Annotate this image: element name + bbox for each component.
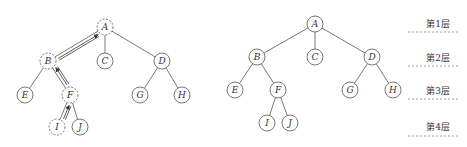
tree-node-e: E	[227, 82, 243, 98]
svg-text:E: E	[231, 85, 239, 95]
svg-text:A: A	[311, 19, 319, 29]
tree-edge	[281, 98, 288, 116]
tree-edge	[72, 103, 77, 120]
svg-text:B: B	[44, 56, 52, 66]
tree-node-j: J	[72, 119, 88, 135]
svg-text:D: D	[157, 56, 165, 66]
tree-node-a: A	[307, 16, 323, 32]
svg-text:E: E	[21, 90, 29, 100]
tree-node-c: C	[97, 53, 113, 69]
tree-node-i: I	[49, 119, 65, 135]
tree-edge	[376, 64, 388, 84]
svg-text:C: C	[312, 52, 319, 62]
tree-node-b: B	[249, 49, 265, 65]
svg-text:B: B	[253, 52, 261, 62]
tree-edge	[112, 31, 155, 57]
tree-node-h: H	[174, 87, 190, 103]
tree-node-i: I	[259, 115, 275, 131]
level-label-3: 第3层	[411, 84, 465, 97]
path-arrow	[58, 67, 69, 84]
tree-node-g: G	[132, 87, 148, 103]
tree-edge	[29, 68, 43, 89]
tree-node-a: A	[97, 19, 113, 35]
tree-edge	[60, 102, 67, 119]
path-arrow	[58, 35, 98, 59]
svg-text:I: I	[264, 118, 269, 128]
level-label-1: 第1层	[411, 17, 465, 30]
svg-text:H: H	[388, 85, 397, 95]
tree-edge	[264, 28, 308, 53]
svg-text:H: H	[177, 90, 186, 100]
tree-node-b: B	[40, 53, 56, 69]
tree-node-e: E	[17, 87, 33, 103]
tree-edge	[322, 28, 365, 53]
svg-text:G: G	[346, 85, 353, 95]
tree-edge	[166, 68, 178, 88]
tree-edge	[52, 68, 65, 89]
tree-edge	[354, 64, 367, 84]
tree-node-d: D	[154, 53, 170, 69]
tree-node-d: D	[364, 49, 380, 65]
tree-node-c: C	[307, 49, 323, 65]
tree-edge	[270, 98, 276, 116]
binary-tree-diagram: ABCDEFGHIJABCDEFGHIJ	[0, 0, 467, 147]
svg-text:F: F	[274, 85, 282, 95]
tree-node-j: J	[282, 115, 298, 131]
level-label-2: 第2层	[411, 51, 465, 64]
tree-node-f: F	[270, 82, 286, 98]
tree-edge	[144, 68, 157, 89]
tree-edge	[261, 64, 273, 84]
svg-text:G: G	[136, 90, 143, 100]
tree-node-g: G	[342, 82, 358, 98]
svg-text:F: F	[66, 90, 74, 100]
tree-node-h: H	[385, 82, 401, 98]
path-arrow	[59, 36, 99, 60]
svg-text:I: I	[54, 122, 59, 132]
tree-node-f: F	[62, 87, 78, 103]
right-tree: ABCDEFGHIJ	[227, 16, 401, 131]
left-tree-with-path: ABCDEFGHIJ	[17, 19, 190, 135]
tree-edge	[239, 64, 252, 84]
svg-text:C: C	[102, 56, 109, 66]
svg-text:D: D	[367, 52, 375, 62]
svg-text:A: A	[101, 22, 109, 32]
level-label-4: 第4层	[411, 120, 465, 133]
tree-edge	[55, 31, 98, 57]
